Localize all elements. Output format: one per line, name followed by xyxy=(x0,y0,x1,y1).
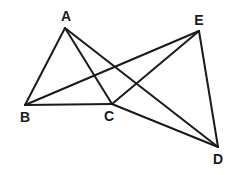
vertex-label-d: D xyxy=(213,151,223,167)
segment-cd xyxy=(112,104,218,147)
segment-ac xyxy=(65,28,112,104)
segment-ab xyxy=(25,28,65,105)
edges-group xyxy=(25,28,218,147)
segment-be xyxy=(25,31,199,105)
labels-group: ABCDE xyxy=(20,8,223,167)
segment-bc xyxy=(25,104,112,105)
vertex-label-e: E xyxy=(194,12,203,28)
vertex-label-b: B xyxy=(20,109,30,125)
vertex-label-c: C xyxy=(104,108,114,124)
geometry-diagram: ABCDE xyxy=(0,0,236,175)
segment-ad xyxy=(65,28,218,147)
segment-ed xyxy=(199,31,218,147)
segment-ce xyxy=(112,31,199,104)
vertex-label-a: A xyxy=(61,8,71,24)
